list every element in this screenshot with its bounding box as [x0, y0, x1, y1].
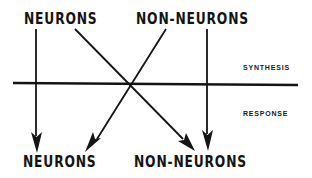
edge-non-neurons-to-non-neurons: [202, 29, 213, 151]
bottom-node-non-neurons: NON-NEURONS: [134, 155, 247, 170]
phase-label-response: RESPONSE: [243, 110, 288, 117]
bottom-node-neurons: NEURONS: [23, 155, 97, 170]
top-node-non-neurons: NON-NEURONS: [136, 12, 249, 27]
diagram-canvas: NEURONS NON-NEURONS SYNTHESIS RESPONSE N…: [0, 0, 312, 178]
top-node-neurons: NEURONS: [24, 12, 98, 27]
phase-label-synthesis: SYNTHESIS: [243, 64, 290, 71]
phase-divider-line: [13, 83, 298, 85]
edge-neurons-to-neurons: [31, 29, 42, 153]
edge-non-neurons-to-neurons: [85, 29, 166, 152]
